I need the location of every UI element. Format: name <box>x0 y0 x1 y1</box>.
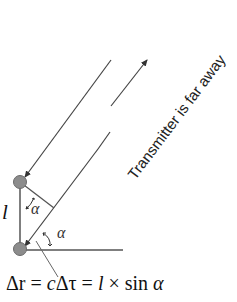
angle-label-top: α <box>31 200 39 218</box>
formula-delta-r: Δr <box>6 272 26 294</box>
incoming-ray-top <box>25 60 111 177</box>
direction-arrow <box>111 60 147 106</box>
angle-label-bottom: α <box>57 224 65 242</box>
antenna-top <box>14 176 27 189</box>
formula-c: c <box>47 272 56 294</box>
formula-eq1: = <box>26 272 47 294</box>
baseline-length-label: l <box>2 200 8 225</box>
path-difference-formula: Δr = cΔτ = l × sin α <box>6 272 164 295</box>
antenna-bottom <box>14 243 27 256</box>
formula-alpha: α <box>153 272 164 294</box>
formula-times-sin: × sin <box>103 272 153 294</box>
formula-eq2: = <box>77 272 98 294</box>
formula-delta-tau: Δτ <box>56 272 77 294</box>
geometry-diagram <box>0 0 237 302</box>
incoming-ray-bottom-upper <box>98 132 110 149</box>
